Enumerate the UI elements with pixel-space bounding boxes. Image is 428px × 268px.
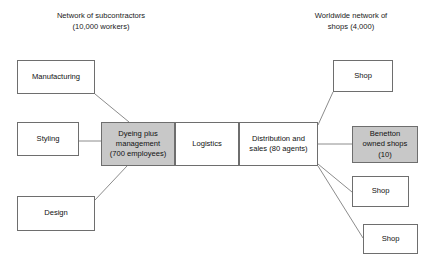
- link-design-to-dyeing: [95, 166, 127, 200]
- node-distribution-and-sales: Distribution and sales (80 agents): [239, 122, 318, 166]
- node-benetton-owned-shops: Benetton owned shops (10): [352, 126, 418, 163]
- node-shop-2: Shop: [352, 176, 409, 207]
- node-shop-3: Shop: [363, 224, 418, 254]
- node-shop-1: Shop: [333, 60, 393, 92]
- node-styling: Styling: [17, 122, 79, 156]
- node-manufacturing: Manufacturing: [17, 60, 95, 94]
- node-dyeing-plus-management: Dyeing plus management (700 employees): [101, 122, 175, 166]
- link-manufacturing-to-dyeing: [95, 94, 129, 122]
- node-design: Design: [17, 196, 95, 231]
- link-distribution-to-shop-2: [318, 164, 352, 192]
- diagram-canvas: Network of subcontractors (10,000 worker…: [0, 0, 428, 268]
- node-logistics: Logistics: [175, 122, 239, 166]
- link-distribution-to-shop-1: [318, 92, 333, 125]
